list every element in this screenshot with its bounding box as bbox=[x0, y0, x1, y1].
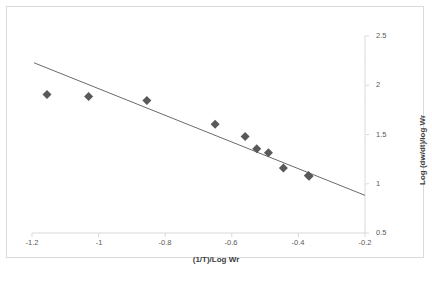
x-tick-label-5: -0.2 bbox=[352, 238, 378, 247]
y-tick-label-0: 0.5 bbox=[376, 228, 386, 237]
data-point-7 bbox=[279, 163, 288, 172]
x-tick-label-2: -0.8 bbox=[152, 238, 178, 247]
data-point-4 bbox=[241, 132, 250, 141]
y-tick-label-3: 2 bbox=[376, 80, 380, 89]
x-tick-label-0: -1.2 bbox=[19, 238, 45, 247]
y-axis-title: Log (dw/dt)/log Wr bbox=[418, 115, 427, 185]
y-tick-label-4: 2.5 bbox=[376, 31, 386, 40]
x-tick-label-1: -1 bbox=[86, 238, 112, 247]
chart-page: 2.5 2 1.5 1 0.5 -1.2 -1 -0.8 -0.6 -0.4 -… bbox=[0, 0, 432, 286]
y-tick-label-1: 1 bbox=[376, 179, 380, 188]
y-tick-label-2: 1.5 bbox=[376, 130, 386, 139]
x-axis-title: (1/T)/Log Wr bbox=[0, 255, 432, 264]
x-tick-label-4: -0.4 bbox=[285, 238, 311, 247]
trendline bbox=[34, 63, 365, 196]
x-tick-label-3: -0.6 bbox=[218, 238, 244, 247]
data-point-3 bbox=[211, 120, 220, 129]
data-point-5 bbox=[252, 144, 261, 153]
data-point-9 bbox=[305, 172, 314, 181]
data-point-1 bbox=[84, 92, 93, 101]
data-point-0 bbox=[42, 90, 51, 99]
data-point-2 bbox=[142, 96, 151, 105]
